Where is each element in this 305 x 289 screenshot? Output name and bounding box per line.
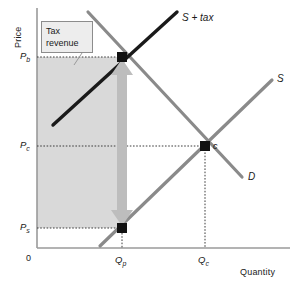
y-tick-pb: Pb bbox=[20, 51, 30, 63]
point-marker-ps bbox=[117, 223, 127, 233]
y-axis-title: Price bbox=[14, 26, 23, 48]
x-tick-qp: Qp bbox=[115, 255, 126, 267]
tax-box-line2: revenue bbox=[46, 37, 92, 49]
point-marker-c bbox=[200, 141, 210, 151]
y-tick-pb-sub: b bbox=[26, 56, 30, 63]
tax-incidence-diagram: Tax revenue Price Quantity 0 Pb Pc Ps Qp… bbox=[0, 0, 305, 289]
point-label-c: c bbox=[213, 142, 218, 151]
y-tick-pc-sub: c bbox=[26, 145, 30, 152]
x-tick-qc-sub: c bbox=[205, 260, 209, 267]
point-marker-pb bbox=[117, 52, 127, 62]
tax-box-line1: Tax bbox=[46, 25, 92, 37]
y-tick-pc: Pc bbox=[20, 140, 30, 152]
y-tick-ps-sub: s bbox=[26, 227, 30, 234]
x-tick-qp-sub: p bbox=[122, 260, 126, 267]
y-tick-ps: Ps bbox=[20, 222, 30, 234]
curve-label-supply: S bbox=[277, 74, 284, 84]
curve-label-s-plus-tax: S + tax bbox=[182, 13, 213, 23]
x-axis-title: Quantity bbox=[240, 268, 275, 277]
x-tick-qc: Qc bbox=[198, 255, 209, 267]
curve-label-demand: D bbox=[248, 172, 255, 182]
tax-revenue-annotation-box: Tax revenue bbox=[41, 21, 93, 53]
tax-revenue-shaded-area bbox=[37, 57, 122, 228]
origin-label: 0 bbox=[26, 254, 31, 263]
